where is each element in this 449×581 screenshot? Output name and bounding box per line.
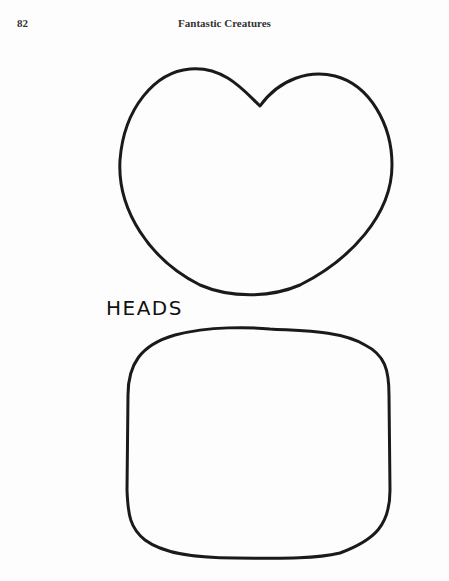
rounded-square-head-outline [127,328,390,559]
book-page: 82 Fantastic Creatures HEADS [0,0,449,581]
cut-off-footer-text [24,571,154,581]
head-templates-illustration [0,0,449,581]
heads-section-label: HEADS [106,296,183,320]
heart-shaped-head-outline [120,69,392,295]
